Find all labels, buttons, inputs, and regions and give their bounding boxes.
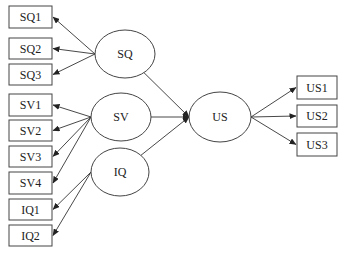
indicator-sq2: SQ2 (9, 38, 52, 59)
loading-arrow-sq2 (53, 49, 95, 55)
indicator-sq3: SQ3 (9, 64, 52, 85)
indicator-us3: US3 (297, 133, 337, 156)
indicator-label: SQ3 (20, 68, 41, 82)
indicator-sv1: SV1 (9, 94, 52, 116)
indicator-label: SV4 (20, 176, 41, 190)
indicator-us1: US1 (297, 76, 337, 99)
indicator-sq1: SQ1 (9, 6, 52, 28)
edges (53, 17, 296, 236)
path-arrow-sq-us (144, 73, 189, 117)
loading-arrow-us1 (251, 88, 296, 118)
sem-diagram: SQSVIQUSSQ1SQ2SQ3SV1SV2SV3SV4IQ1IQ2US1US… (0, 0, 345, 257)
indicator-sv3: SV3 (9, 146, 52, 167)
loading-arrow-sv1 (53, 105, 91, 117)
latent-variable-us: US (189, 92, 251, 142)
latent-variable-iq: IQ (91, 148, 149, 196)
loading-arrow-sv2 (53, 117, 91, 131)
indicator-iq2: IQ2 (9, 225, 52, 246)
latent-label: IQ (114, 165, 127, 179)
latent-variable-sv: SV (91, 93, 151, 141)
indicator-label: SV1 (20, 98, 41, 112)
indicator-label: SQ1 (20, 10, 41, 24)
loading-arrow-us2 (251, 116, 296, 117)
indicator-label: IQ1 (21, 203, 40, 217)
latent-label: US (212, 110, 227, 124)
indicator-us2: US2 (297, 105, 337, 127)
loading-arrow-sq3 (53, 54, 95, 75)
loading-arrow-us3 (251, 117, 296, 145)
indicator-label: SV3 (20, 150, 41, 164)
indicator-label: IQ2 (21, 229, 40, 243)
latent-variable-sq: SQ (95, 30, 155, 78)
indicator-sv2: SV2 (9, 120, 52, 141)
indicator-label: US2 (306, 109, 327, 123)
indicator-label: US3 (306, 138, 327, 152)
latent-label: SV (113, 110, 129, 124)
indicator-label: US1 (306, 81, 327, 95)
indicator-iq1: IQ1 (9, 199, 52, 220)
latent-label: SQ (117, 47, 133, 61)
indicator-label: SV2 (20, 124, 41, 138)
indicator-label: SQ2 (20, 42, 41, 56)
nodes: SQSVIQUSSQ1SQ2SQ3SV1SV2SV3SV4IQ1IQ2US1US… (9, 6, 337, 246)
loading-arrow-sq1 (53, 17, 95, 54)
indicator-sv4: SV4 (9, 172, 52, 194)
